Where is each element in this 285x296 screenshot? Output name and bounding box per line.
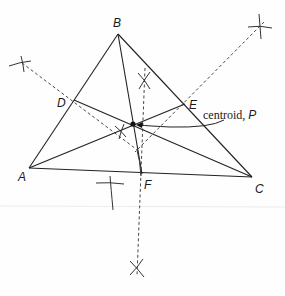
- scan-line: [0, 206, 285, 207]
- centroid-label-text: centroid,: [203, 108, 248, 122]
- centroid-label: centroid, P: [203, 108, 256, 122]
- label-a: A: [17, 170, 26, 184]
- arc-mark-top-right: [248, 14, 272, 39]
- diagram-svg: B A C D E F centroid, P: [0, 0, 285, 296]
- bisector-ab: [22, 63, 140, 152]
- side-ab: [29, 34, 118, 168]
- centroid-point: [130, 121, 135, 126]
- arc-mark-left: [9, 56, 31, 72]
- centroid-construction-diagram: B A C D E F centroid, P: [0, 0, 285, 296]
- label-c: C: [255, 182, 264, 196]
- label-e: E: [189, 98, 198, 112]
- median-ae: [29, 104, 185, 168]
- label-d: D: [57, 96, 66, 110]
- label-f: F: [144, 178, 152, 192]
- bisector-bc: [135, 22, 264, 152]
- centroid-label-var: P: [248, 108, 256, 122]
- label-b: B: [113, 16, 121, 30]
- arc-mark-ac: [96, 176, 124, 210]
